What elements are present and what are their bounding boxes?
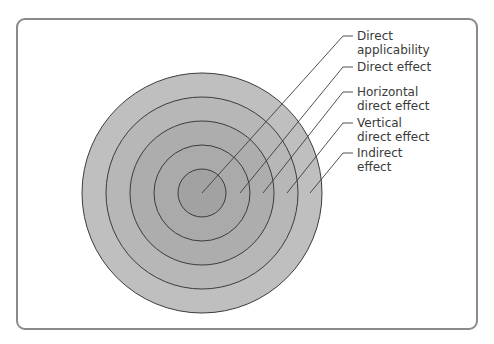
label-direct-applicability: Direct applicability (357, 29, 430, 57)
label-direct-effect: Direct effect (357, 60, 431, 74)
label-line: Direct effect (357, 60, 431, 74)
label-line: direct effect (357, 99, 429, 113)
label-line: effect (357, 160, 402, 174)
label-line: Horizontal (357, 85, 429, 99)
label-line: direct effect (357, 130, 429, 144)
label-vertical-direct-effect: Vertical direct effect (357, 116, 429, 144)
label-indirect-effect: Indirect effect (357, 146, 402, 174)
label-line: Indirect (357, 146, 402, 160)
label-line: Direct (357, 29, 430, 43)
label-line: applicability (357, 43, 430, 57)
label-horizontal-direct-effect: Horizontal direct effect (357, 85, 429, 113)
label-line: Vertical (357, 116, 429, 130)
